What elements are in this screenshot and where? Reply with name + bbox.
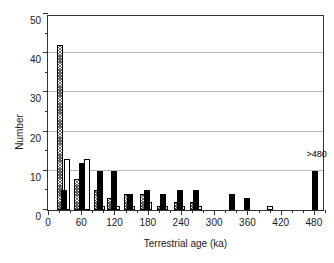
x-tick-label: 0: [45, 218, 51, 228]
x-tick: [281, 210, 282, 215]
x-tick-minor: [59, 210, 60, 213]
x-axis-title: Terrestrial age (ka): [47, 238, 324, 249]
x-tick: [114, 210, 115, 215]
x-tick-label: 300: [206, 218, 223, 228]
x-tick-minor: [236, 210, 237, 213]
bar-solid: [111, 171, 117, 210]
x-tick: [214, 210, 215, 215]
x-tick-minor: [70, 210, 71, 213]
x-tick-minor: [159, 210, 160, 213]
x-tick-minor: [292, 210, 293, 213]
bar-series-container: [48, 16, 323, 210]
plot-area: 01020304050 060120180240300360420480 >48…: [47, 15, 324, 211]
bar-solid: [244, 198, 250, 210]
bar-solid: [144, 190, 150, 210]
bar-solid: [177, 190, 183, 210]
x-tick-minor: [126, 210, 127, 213]
x-tick: [314, 210, 315, 215]
x-tick-label: 180: [139, 218, 156, 228]
x-tick-minor: [170, 210, 171, 213]
bar-open: [267, 206, 273, 210]
y-axis-title: Number: [14, 114, 25, 150]
x-tick: [48, 210, 49, 215]
x-tick-minor: [192, 210, 193, 213]
x-tick-minor: [325, 210, 326, 213]
x-tick-minor: [92, 210, 93, 213]
bar-solid: [193, 190, 199, 210]
x-tick-minor: [259, 210, 260, 213]
x-tick: [81, 210, 82, 215]
x-tick-label: 240: [173, 218, 190, 228]
bar-solid: [127, 194, 133, 210]
x-tick: [148, 210, 149, 215]
x-tick-label: 120: [106, 218, 123, 228]
x-tick-label: 480: [306, 218, 323, 228]
x-tick-label: 360: [239, 218, 256, 228]
bar-solid: [160, 194, 166, 210]
x-tick: [181, 210, 182, 215]
bar-solid: [97, 171, 103, 210]
histogram-figure: Number Terrestrial age (ka) 01020304050 …: [0, 0, 334, 263]
x-tick-label: 60: [76, 218, 87, 228]
x-tick-minor: [270, 210, 271, 213]
x-tick-minor: [137, 210, 138, 213]
x-tick-minor: [203, 210, 204, 213]
y-tick: [43, 13, 48, 14]
bar-solid: [312, 171, 318, 210]
bar-hatched: [57, 45, 63, 210]
x-tick: [247, 210, 248, 215]
bar-solid: [229, 194, 235, 210]
bar-solid: [61, 190, 67, 210]
x-tick-minor: [225, 210, 226, 213]
x-tick-label: 420: [272, 218, 289, 228]
x-tick-minor: [103, 210, 104, 213]
bar-solid: [79, 163, 85, 210]
x-tick-minor: [303, 210, 304, 213]
bar-annotation: >480: [307, 150, 327, 159]
